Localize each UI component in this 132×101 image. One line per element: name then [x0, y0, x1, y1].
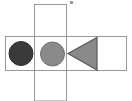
shape-diagram-svg	[0, 0, 132, 101]
dark-circle	[9, 42, 33, 66]
gray-circle	[41, 42, 65, 66]
speckle-artifact	[70, 1, 73, 4]
diagram-canvas	[0, 0, 132, 101]
